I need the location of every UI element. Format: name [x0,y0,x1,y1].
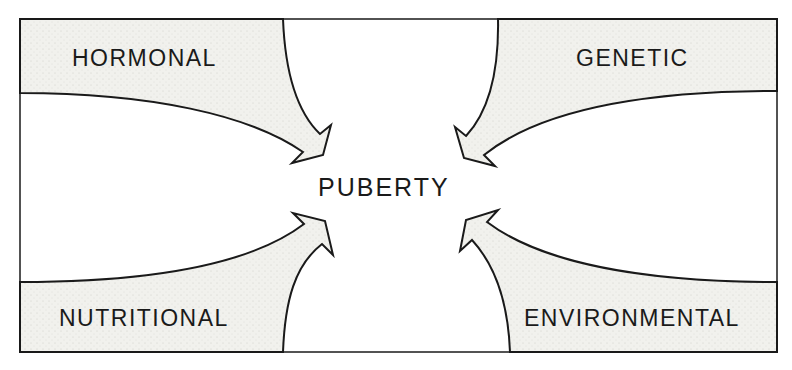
hormonal-arrow [20,19,331,163]
genetic-arrow [455,19,777,166]
factor-label-nutritional: NUTRITIONAL [59,305,229,332]
factor-label-hormonal: HORMONAL [72,45,217,72]
center-label-puberty: PUBERTY [318,173,450,202]
factor-label-genetic: GENETIC [576,45,689,72]
factor-label-environmental: ENVIRONMENTAL [524,305,740,332]
